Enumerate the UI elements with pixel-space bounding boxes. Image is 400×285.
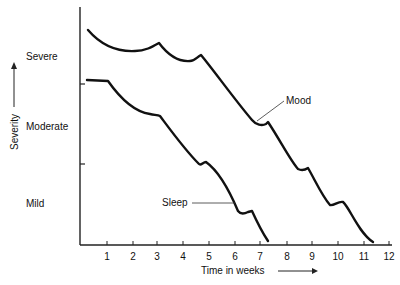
y-axis-title: Severity (9, 114, 20, 150)
x-tick-label: 9 (309, 251, 315, 262)
mood-label: Mood (286, 95, 311, 106)
sleep-label: Sleep (162, 197, 188, 208)
x-tick-label: 12 (383, 251, 395, 262)
x-axis-title: Time in weeks (201, 265, 265, 276)
x-tick-label: 10 (332, 251, 344, 262)
x-axis-arrowhead-icon (312, 268, 318, 274)
x-tick-label: 6 (232, 251, 238, 262)
sleep-line (87, 80, 268, 241)
x-tick-label: 1 (104, 251, 110, 262)
y-axis-arrowhead-icon (11, 62, 17, 69)
x-tick-label: 4 (180, 251, 186, 262)
mood-line (88, 30, 373, 242)
x-tick-label: 11 (359, 251, 370, 262)
x-tick-label: 2 (130, 251, 136, 262)
y-label-mild: Mild (26, 198, 44, 209)
y-label-moderate: Moderate (26, 121, 69, 132)
y-label-severe: Severe (26, 51, 58, 62)
x-tick-label: 3 (154, 251, 160, 262)
x-tick-label: 8 (284, 251, 290, 262)
x-tick-label: 5 (206, 251, 212, 262)
mood-leader-line (257, 101, 284, 121)
x-tick-label: 7 (257, 251, 263, 262)
severity-over-time-chart: 1 2 3 4 5 6 7 8 9 10 11 12 Time in weeks… (0, 0, 400, 285)
